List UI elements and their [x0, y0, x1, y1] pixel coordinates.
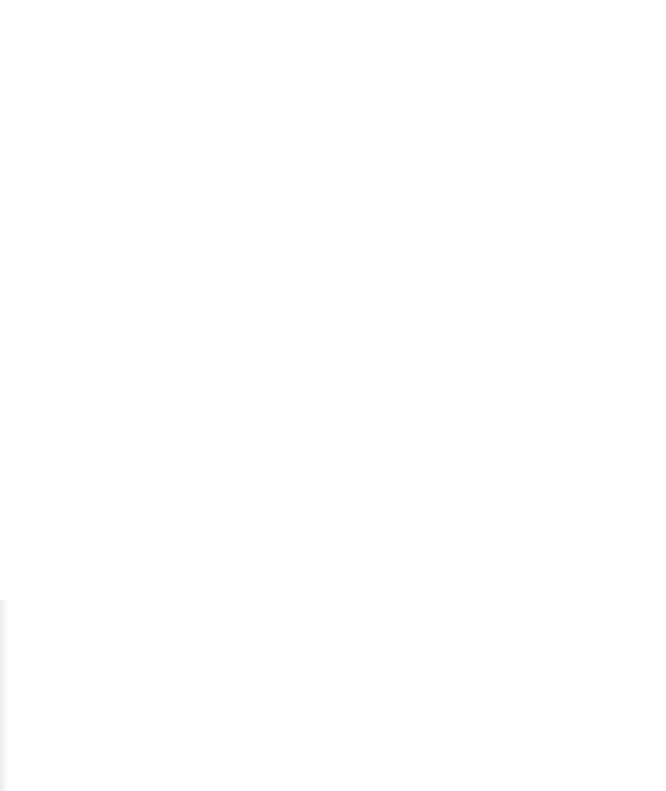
name-popularity-heatmap [0, 0, 666, 791]
page-edge-shadow [0, 600, 8, 791]
